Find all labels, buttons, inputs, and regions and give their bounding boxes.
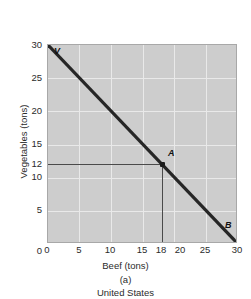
x-tick-0: 0 — [44, 245, 49, 255]
y-axis-title: Vegetables (tons) — [18, 72, 29, 212]
x-tick-20: 20 — [175, 245, 186, 255]
point-a-marker — [160, 162, 165, 167]
x-axis-title: Beef (tons) — [0, 261, 251, 271]
plot-area: V A B — [47, 44, 237, 243]
x-tick-15: 15 — [137, 245, 148, 255]
x-axis-ticks: 0 5 10 15 18 20 25 30 — [0, 245, 251, 257]
x-tick-30: 30 — [232, 245, 243, 255]
y-tick-30: 30 — [16, 40, 42, 50]
ppf-chart-figure: 30 25 20 15 12 10 5 0 Vegetables (tons) — [0, 0, 251, 299]
point-label-b: B — [225, 221, 232, 230]
x-tick-25: 25 — [200, 245, 211, 255]
panel-name-label: United States — [0, 288, 251, 298]
ppf-line — [48, 45, 237, 243]
x-tick-18: 18 — [156, 245, 167, 255]
point-label-a: A — [168, 149, 175, 158]
panel-letter: (a) — [0, 275, 251, 285]
x-tick-5: 5 — [76, 245, 81, 255]
point-label-v: V — [54, 47, 60, 56]
x-tick-10: 10 — [105, 245, 116, 255]
